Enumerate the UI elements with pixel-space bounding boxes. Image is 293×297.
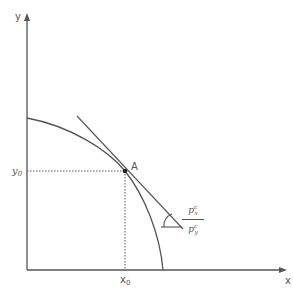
denominator-sub: y	[194, 228, 197, 235]
numerator-sub: x	[194, 209, 197, 216]
y0-label: y0	[12, 165, 22, 178]
price-ratio-label: pcx pcy	[182, 202, 204, 237]
y-axis-arrow-icon	[24, 13, 30, 21]
frontier-curve	[27, 118, 163, 270]
x-axis-arrow-icon	[279, 267, 287, 273]
x-axis-label: x	[285, 275, 291, 286]
y-axis-label: y	[15, 11, 21, 22]
tangent-price-line	[77, 116, 183, 229]
price-ratio-numerator: pcx	[182, 202, 204, 218]
fraction-bar	[182, 219, 204, 220]
x0-subscript: 0	[126, 279, 130, 287]
diagram-canvas	[0, 0, 293, 297]
x0-label: x0	[120, 274, 130, 287]
y0-subscript: 0	[18, 170, 22, 178]
price-ratio-denominator: pcy	[182, 221, 204, 237]
point-a-marker	[123, 169, 128, 174]
point-a-label: A	[131, 161, 138, 172]
